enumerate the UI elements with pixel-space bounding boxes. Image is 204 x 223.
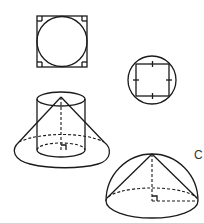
circle-inscribed-square-figure	[128, 56, 176, 104]
figure-label-c: C	[194, 148, 203, 162]
square-inscribed-circle-figure	[37, 16, 87, 67]
cone-cylinder-figure	[14, 92, 109, 168]
geometry-diagram	[0, 0, 204, 223]
hemisphere-cone-figure	[106, 154, 198, 218]
